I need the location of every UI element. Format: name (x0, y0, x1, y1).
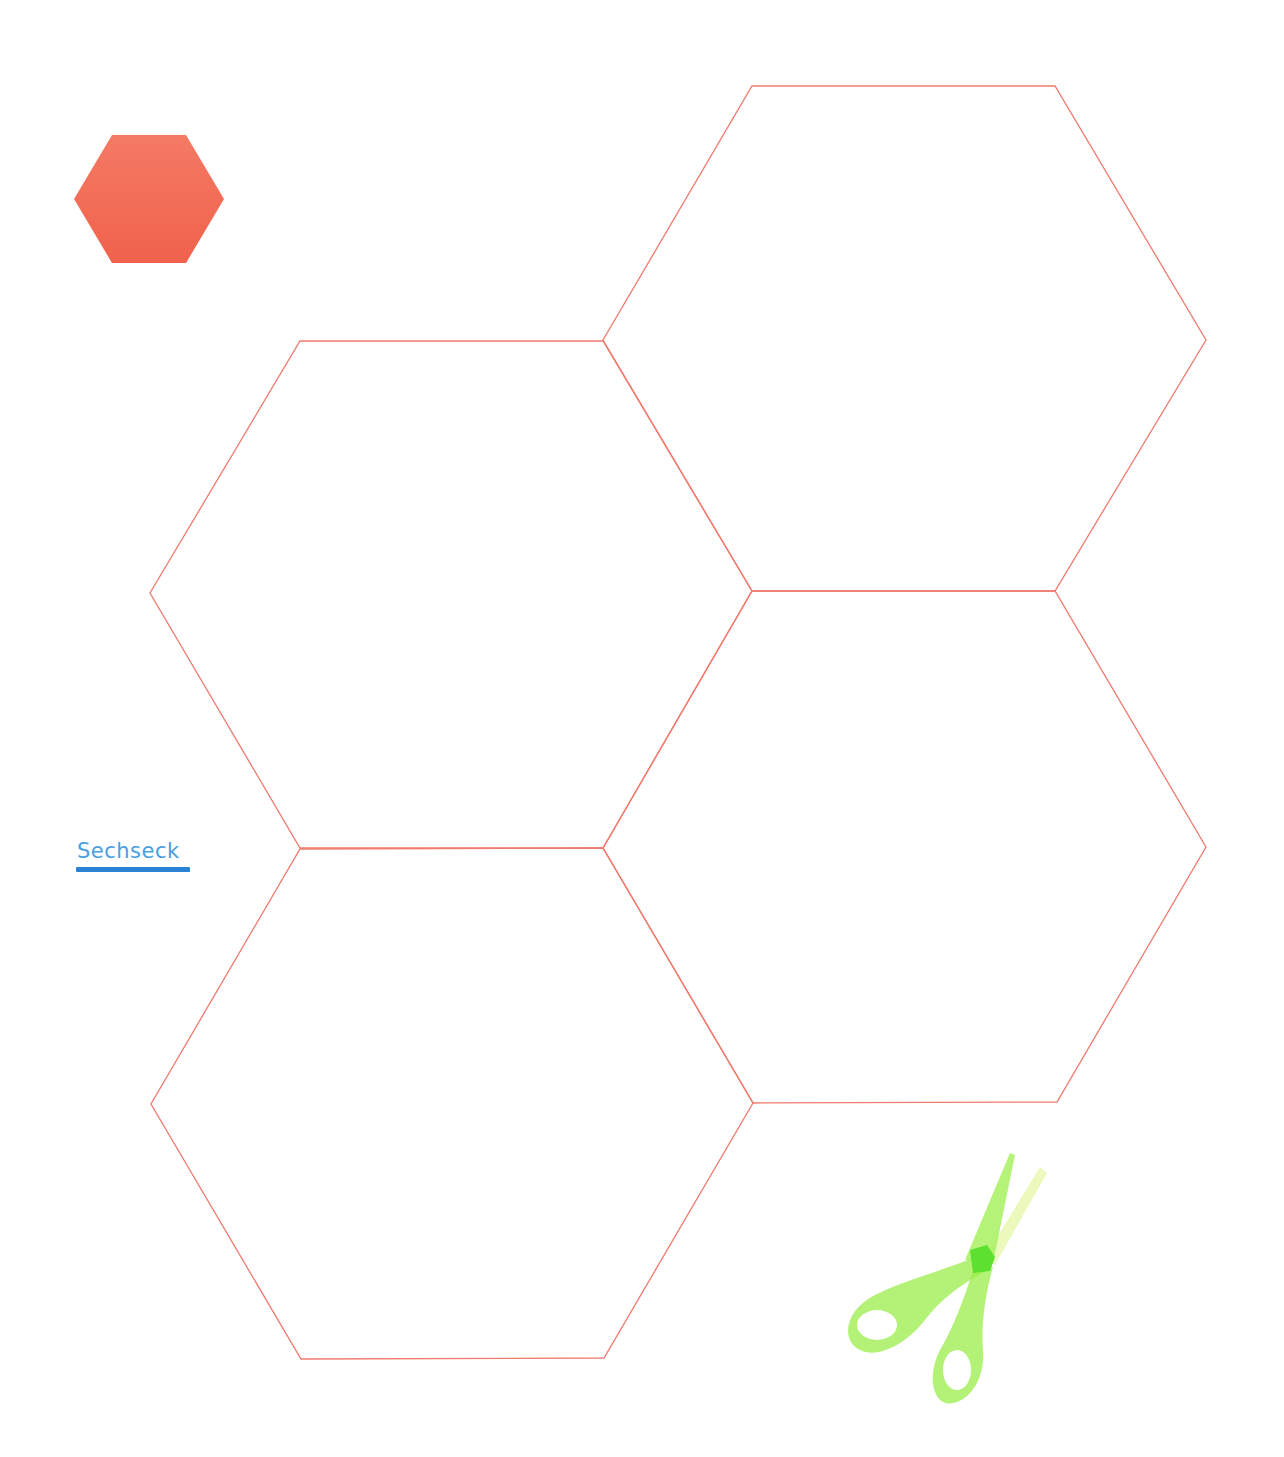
shape-label: Sechseck (77, 838, 180, 864)
hexagon-outline-middle-left (150, 341, 752, 848)
worksheet-canvas: Sechseck (0, 0, 1284, 1457)
hexagon-template (0, 0, 1284, 1457)
hexagon-outline-bottom-left (151, 848, 753, 1359)
hexagon-outline-top-right (603, 86, 1206, 591)
label-underline (76, 867, 190, 872)
hexagon-outline-middle-right (603, 591, 1206, 1103)
scissors-icon (835, 1145, 1055, 1410)
